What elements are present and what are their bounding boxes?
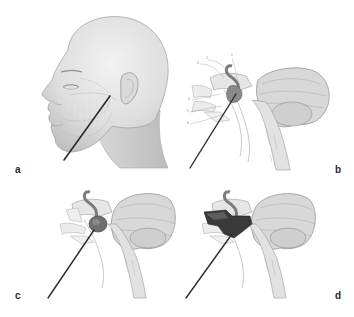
anatomical-figure: a <box>0 0 354 317</box>
callout-6: 6 <box>187 122 189 125</box>
panel-label-d: d <box>335 291 341 301</box>
callout-5: 5 <box>187 110 189 113</box>
needle <box>186 234 232 298</box>
sagittal-illustration <box>180 50 354 180</box>
panel-label-c: c <box>15 291 21 301</box>
panel-b-sagittal-section: 1 2 3 4 5 6 b <box>180 50 354 180</box>
needle <box>48 230 94 298</box>
callout-1: 1 <box>231 54 233 57</box>
panel-c-target-reached: c <box>0 180 180 317</box>
target-illustration-c <box>0 180 180 317</box>
panel-d-target-treated: d <box>180 180 354 317</box>
callout-2: 2 <box>206 57 208 60</box>
panel-label-b: b <box>335 165 341 175</box>
panel-a-head: a <box>0 0 180 180</box>
panel-label-a: a <box>15 165 21 175</box>
callout-3: 3 <box>197 62 199 65</box>
target-illustration-d <box>180 180 354 317</box>
head-illustration <box>0 0 180 180</box>
callout-4: 4 <box>188 98 190 101</box>
